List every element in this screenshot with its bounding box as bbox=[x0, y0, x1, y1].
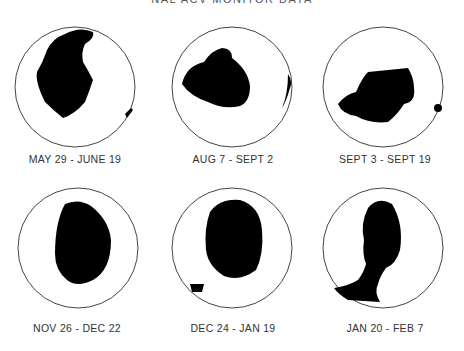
panel-label: JAN 20 - FEB 7 bbox=[310, 322, 460, 334]
blob-shape bbox=[338, 68, 414, 122]
panel-label: SEPT 3 - SEPT 19 bbox=[310, 153, 460, 165]
panel-dec-jan bbox=[160, 184, 310, 314]
small-fragment bbox=[190, 284, 204, 292]
small-dot bbox=[434, 104, 442, 112]
panel-label: MAY 29 - JUNE 19 bbox=[0, 153, 150, 165]
panel-aug-sept bbox=[160, 22, 310, 152]
panel-may-june bbox=[5, 22, 155, 152]
circle-plot bbox=[5, 184, 155, 314]
panel-label: NOV 26 - DEC 22 bbox=[2, 322, 152, 334]
panel-nov-dec bbox=[5, 184, 155, 314]
small-fragment bbox=[125, 108, 133, 118]
circle-plot bbox=[160, 184, 310, 314]
blob-shape bbox=[55, 201, 111, 284]
circle-plot bbox=[160, 22, 310, 152]
circle-plot bbox=[5, 22, 155, 152]
blob-shape bbox=[182, 48, 250, 107]
panel-label: AUG 7 - SEPT 2 bbox=[158, 153, 308, 165]
blob-shape bbox=[37, 29, 94, 118]
blob-shape bbox=[334, 201, 401, 302]
panel-jan-feb bbox=[308, 184, 458, 314]
circle-plot bbox=[308, 22, 458, 152]
figure-title: NAL ACV MONITOR DATA bbox=[0, 0, 464, 5]
circle-plot bbox=[308, 184, 458, 314]
panel-sept bbox=[308, 22, 458, 152]
panel-label: DEC 24 - JAN 19 bbox=[158, 322, 308, 334]
blob-shape bbox=[206, 200, 263, 278]
